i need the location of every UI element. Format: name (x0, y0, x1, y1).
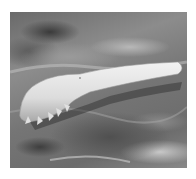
mite-illustration (10, 12, 187, 168)
sem-micrograph (10, 12, 187, 168)
